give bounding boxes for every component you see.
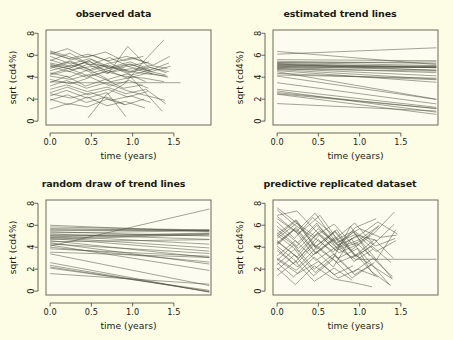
- x-tick-label: 1.5: [394, 307, 407, 317]
- x-tick-label: 1.5: [394, 137, 407, 147]
- y-tick-label: 6: [254, 223, 264, 228]
- x-tick-label: 0.0: [44, 307, 57, 317]
- panel-plot: 024680.00.51.01.5time (years)sqrt (cd4%): [0, 0, 227, 170]
- x-tick-label: 1.0: [353, 137, 366, 147]
- x-tick-label: 0.5: [85, 307, 98, 317]
- x-tick-label: 1.5: [167, 137, 180, 147]
- y-axis-title: sqrt (cd4%): [234, 51, 245, 105]
- x-tick-label: 1.5: [167, 307, 180, 317]
- y-tick-label: 4: [27, 245, 37, 250]
- x-tick-label: 1.0: [126, 307, 139, 317]
- x-tick-label: 0.0: [44, 137, 57, 147]
- y-tick-label: 0: [254, 119, 264, 124]
- x-tick-label: 0.0: [271, 137, 284, 147]
- panel-title: predictive replicated dataset: [227, 178, 453, 189]
- y-tick-label: 8: [27, 31, 37, 36]
- x-axis-title: time (years): [327, 320, 383, 331]
- y-axis-title: sqrt (cd4%): [7, 51, 18, 105]
- y-axis-title: sqrt (cd4%): [234, 221, 245, 275]
- y-tick-label: 0: [27, 119, 37, 124]
- y-tick-label: 0: [254, 289, 264, 294]
- panel-plot: 024680.00.51.01.5time (years)sqrt (cd4%): [227, 0, 453, 170]
- panel-title: random draw of trend lines: [0, 178, 227, 189]
- x-tick-label: 0.5: [312, 307, 325, 317]
- y-tick-label: 8: [27, 201, 37, 206]
- x-axis-title: time (years): [100, 320, 156, 331]
- y-tick-label: 4: [254, 75, 264, 80]
- y-tick-label: 4: [254, 245, 264, 250]
- x-tick-label: 1.0: [126, 137, 139, 147]
- x-axis-title: time (years): [327, 150, 383, 161]
- x-tick-label: 1.0: [353, 307, 366, 317]
- panel-predictive-replicated-dataset: predictive replicated dataset 024680.00.…: [227, 170, 453, 340]
- y-tick-label: 8: [254, 31, 264, 36]
- y-axis-title: sqrt (cd4%): [7, 221, 18, 275]
- y-tick-label: 6: [27, 223, 37, 228]
- y-tick-label: 2: [27, 97, 37, 102]
- y-tick-label: 2: [254, 97, 264, 102]
- panel-plot: 024680.00.51.01.5time (years)sqrt (cd4%): [0, 170, 227, 340]
- x-tick-label: 0.0: [271, 307, 284, 317]
- y-tick-label: 8: [254, 201, 264, 206]
- y-tick-label: 2: [254, 267, 264, 272]
- y-tick-label: 6: [27, 53, 37, 58]
- x-tick-label: 0.5: [312, 137, 325, 147]
- panel-estimated-trend-lines: estimated trend lines 024680.00.51.01.5t…: [227, 0, 453, 170]
- y-tick-label: 0: [27, 289, 37, 294]
- figure-canvas: observed data 024680.00.51.01.5time (yea…: [0, 0, 453, 340]
- panel-plot: 024680.00.51.01.5time (years)sqrt (cd4%): [227, 170, 453, 340]
- panel-title: observed data: [0, 8, 227, 19]
- y-tick-label: 6: [254, 53, 264, 58]
- panel-observed-data: observed data 024680.00.51.01.5time (yea…: [0, 0, 227, 170]
- y-tick-label: 4: [27, 75, 37, 80]
- x-tick-label: 0.5: [85, 137, 98, 147]
- x-axis-title: time (years): [100, 150, 156, 161]
- y-tick-label: 2: [27, 267, 37, 272]
- panel-title: estimated trend lines: [227, 8, 453, 19]
- panel-random-draw-of-trend-lines: random draw of trend lines 024680.00.51.…: [0, 170, 227, 340]
